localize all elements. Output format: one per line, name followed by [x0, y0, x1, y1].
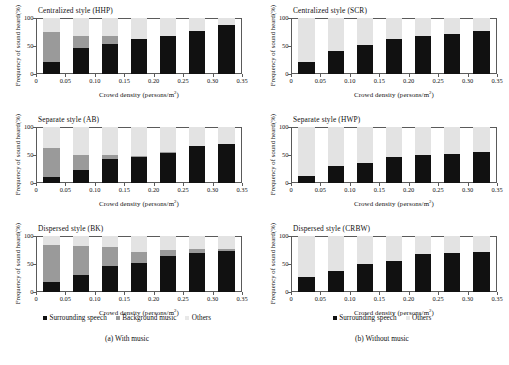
stacked-bar[interactable] [43, 127, 59, 183]
x-axis-tick-label: 0.10 [89, 78, 100, 84]
stacked-bar[interactable] [328, 127, 344, 183]
bar-segment-others [328, 127, 344, 166]
stacked-bar[interactable] [444, 127, 460, 183]
stacked-bar[interactable] [218, 127, 234, 183]
bar-segment-others [473, 18, 489, 31]
panel-title: Dispersed style (CRBW) [293, 224, 370, 233]
stacked-bar[interactable] [298, 18, 314, 74]
x-axis-tick-label: 0.30 [462, 187, 473, 193]
stacked-bar[interactable] [218, 236, 234, 292]
stacked-bar[interactable] [73, 127, 89, 183]
stacked-bar[interactable] [328, 18, 344, 74]
stacked-bar[interactable] [218, 18, 234, 74]
stacked-bar[interactable] [357, 236, 373, 292]
x-axis-tick-mark [65, 74, 66, 77]
stacked-bar[interactable] [131, 236, 147, 292]
bar-segment-others [357, 18, 373, 45]
stacked-bar[interactable] [131, 127, 147, 183]
x-axis-ticks: 00.050.100.150.200.250.300.35 [291, 183, 497, 197]
bar-slot [379, 236, 408, 292]
bar-slot [154, 18, 183, 74]
bar-segment-surrounding-speech [218, 251, 234, 292]
legend-label: Surrounding speech [49, 314, 106, 322]
stacked-bar[interactable] [73, 18, 89, 74]
x-axis-tick-label: 0.10 [89, 187, 100, 193]
bar-segment-others [102, 18, 118, 36]
stacked-bar[interactable] [102, 18, 118, 74]
y-axis-label: Frequency of sound heard(%) [269, 218, 276, 310]
x-axis-tick-mark [497, 292, 498, 295]
x-axis-tick-label: 0.05 [60, 187, 71, 193]
stacked-bar[interactable] [415, 127, 431, 183]
stacked-bar[interactable] [357, 127, 373, 183]
x-axis-tick-label: 0.30 [207, 296, 218, 302]
x-axis-tick-mark [409, 292, 410, 295]
x-axis-tick-label: 0 [289, 296, 292, 302]
legend-swatch-background-music [116, 316, 120, 320]
stacked-bar[interactable] [415, 18, 431, 74]
bar-segment-surrounding-speech [444, 154, 460, 183]
bar-segment-surrounding-speech [131, 39, 147, 74]
stacked-bar[interactable] [444, 18, 460, 74]
stacked-bar[interactable] [43, 236, 59, 292]
x-axis-tick-mark [65, 292, 66, 295]
stacked-bar[interactable] [357, 18, 373, 74]
x-axis-tick-label: 0.35 [236, 78, 247, 84]
bar-segment-surrounding-speech [189, 253, 205, 292]
x-axis-tick-mark [36, 183, 37, 186]
bar-segment-others [218, 236, 234, 249]
stacked-bar[interactable] [43, 18, 59, 74]
stacked-bar[interactable] [298, 127, 314, 183]
stacked-bar[interactable] [473, 236, 489, 292]
x-axis-tick-label: 0.20 [148, 296, 159, 302]
x-axis-tick-label: 0.25 [178, 296, 189, 302]
x-axis-tick-label: 0.20 [148, 187, 159, 193]
x-axis-ticks: 00.050.100.150.200.250.300.35 [291, 74, 497, 88]
legend-swatch-others [406, 316, 410, 320]
stacked-bar[interactable] [386, 18, 402, 74]
stacked-bar[interactable] [444, 236, 460, 292]
x-axis-tick-label: 0.05 [315, 187, 326, 193]
x-axis-tick-label: 0.20 [403, 187, 414, 193]
bar-segment-surrounding-speech [102, 44, 118, 74]
bar-segment-surrounding-speech [415, 155, 431, 183]
x-axis-tick-label: 0.25 [433, 296, 444, 302]
stacked-bar[interactable] [328, 236, 344, 292]
bar-segment-surrounding-speech [386, 39, 402, 74]
stacked-bar[interactable] [415, 236, 431, 292]
stacked-bar[interactable] [298, 236, 314, 292]
stacked-bar[interactable] [473, 127, 489, 183]
stacked-bar[interactable] [189, 18, 205, 74]
stacked-bar[interactable] [386, 127, 402, 183]
stacked-bar[interactable] [102, 127, 118, 183]
x-axis-label: Crowd density (persons/m2) [36, 90, 242, 98]
bar-segment-background-music [73, 155, 89, 170]
bar-segment-others [298, 236, 314, 277]
stacked-bar[interactable] [473, 18, 489, 74]
bar-group [36, 127, 242, 183]
x-axis-tick-mark [438, 183, 439, 186]
stacked-bar[interactable] [160, 127, 176, 183]
legend-swatch-others [185, 316, 189, 320]
stacked-bar[interactable] [189, 236, 205, 292]
stacked-bar[interactable] [160, 236, 176, 292]
bar-segment-others [43, 236, 59, 245]
stacked-bar[interactable] [386, 236, 402, 292]
legend-item: Surrounding speech [333, 314, 397, 322]
stacked-bar[interactable] [131, 18, 147, 74]
stacked-bar[interactable] [102, 236, 118, 292]
x-axis-tick-label: 0.15 [374, 78, 385, 84]
stacked-bar[interactable] [160, 18, 176, 74]
bar-segment-surrounding-speech [218, 25, 234, 74]
legend-label: Background music [122, 314, 176, 322]
legend-label: Surrounding speech [339, 314, 396, 322]
bar-segment-others [415, 236, 431, 254]
stacked-bar[interactable] [189, 127, 205, 183]
x-axis-tick-label: 0 [34, 296, 37, 302]
stacked-bar[interactable] [73, 236, 89, 292]
x-axis-label: Crowd density (persons/m2) [291, 199, 497, 207]
x-axis-tick-label: 0.10 [344, 296, 355, 302]
bar-segment-surrounding-speech [357, 264, 373, 292]
bar-segment-surrounding-speech [73, 170, 89, 183]
bar-segment-surrounding-speech [43, 62, 59, 74]
